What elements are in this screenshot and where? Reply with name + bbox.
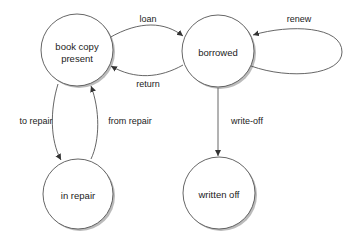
label-write-off: write-off bbox=[230, 116, 263, 126]
label-to-repair: to repair bbox=[19, 116, 52, 126]
transition-to-repair bbox=[52, 84, 61, 160]
transition-loan bbox=[109, 25, 183, 38]
state-diagram: book copy present borrowed in repair wri… bbox=[0, 0, 359, 249]
state-label-present-line1: book copy bbox=[55, 41, 99, 52]
label-return: return bbox=[136, 79, 160, 89]
state-label-borrowed: borrowed bbox=[198, 47, 238, 58]
state-label-in-repair: in repair bbox=[61, 190, 95, 201]
transition-return bbox=[111, 65, 183, 76]
state-label-written-off: written off bbox=[197, 189, 239, 200]
state-label-present-line2: present bbox=[61, 53, 93, 64]
label-from-repair: from repair bbox=[108, 116, 152, 126]
transition-renew bbox=[251, 29, 342, 74]
label-loan: loan bbox=[139, 14, 156, 24]
label-renew: renew bbox=[287, 14, 312, 24]
transition-from-repair bbox=[91, 86, 98, 159]
